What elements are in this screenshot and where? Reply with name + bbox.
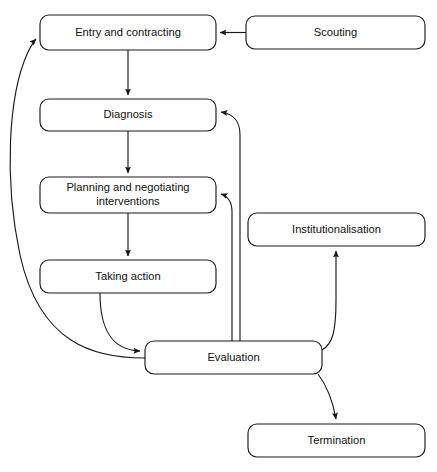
node-entry-and-contracting[interactable]: Entry and contracting	[40, 15, 216, 50]
node-planning-label-line2: interventions	[96, 195, 160, 207]
node-evaluation-label: Evaluation	[207, 351, 259, 363]
node-scouting[interactable]: Scouting	[246, 16, 425, 49]
node-scouting-label: Scouting	[314, 26, 358, 38]
edge-evaluation-to-diagnosis	[221, 112, 240, 341]
node-institutionalisation-label: Institutionalisation	[292, 223, 381, 235]
edge-evaluation-to-planning	[221, 194, 232, 341]
node-institutionalisation[interactable]: Institutionalisation	[248, 213, 425, 246]
node-diagnosis-label: Diagnosis	[103, 108, 153, 120]
node-planning-label-line1: Planning and negotiating	[66, 181, 189, 193]
edge-taking-action-to-evaluation	[100, 293, 140, 351]
node-taking-action[interactable]: Taking action	[40, 260, 216, 293]
node-evaluation[interactable]: Evaluation	[145, 341, 322, 374]
node-planning-and-negotiating-interventions[interactable]: Planning and negotiating interventions	[40, 177, 216, 213]
node-termination[interactable]: Termination	[248, 424, 425, 457]
node-taking-action-label: Taking action	[95, 270, 160, 282]
node-entry-and-contracting-label: Entry and contracting	[75, 26, 181, 38]
node-diagnosis[interactable]: Diagnosis	[40, 99, 216, 131]
flowchart-diagram: Entry and contracting Scouting Diagnosis…	[0, 0, 437, 472]
edge-evaluation-to-institutionalisation	[322, 251, 336, 350]
edge-evaluation-to-termination	[318, 374, 336, 419]
flowchart-canvas: Entry and contracting Scouting Diagnosis…	[0, 0, 437, 472]
node-termination-label: Termination	[308, 434, 366, 446]
